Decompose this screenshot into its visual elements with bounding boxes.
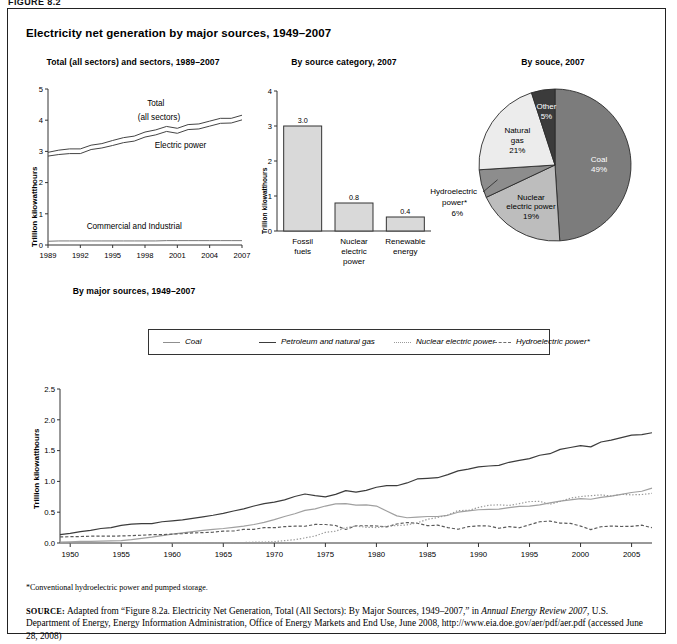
svg-text:0: 0: [39, 241, 43, 250]
svg-text:1: 1: [268, 192, 272, 201]
legend-label-1: Petroleum and natural gas: [281, 337, 375, 346]
svg-text:(all sectors): (all sectors): [138, 113, 181, 122]
svg-text:Electric power: Electric power: [155, 141, 207, 150]
legend-swatch-2: [394, 342, 411, 343]
svg-text:1990: 1990: [470, 550, 488, 559]
svg-text:Natural: Natural: [504, 126, 530, 135]
svg-text:fuels: fuels: [294, 247, 311, 256]
panel1-ylabel: Trillion kilowatthours: [30, 167, 39, 247]
bar-0: [284, 126, 322, 231]
svg-text:1.0: 1.0: [44, 477, 56, 486]
legend-swatch-0: [163, 342, 180, 343]
main-series-0: [60, 433, 652, 535]
svg-text:1965: 1965: [215, 550, 233, 559]
svg-text:1975: 1975: [317, 550, 335, 559]
svg-text:1992: 1992: [72, 251, 89, 260]
svg-text:19%: 19%: [523, 212, 539, 221]
svg-text:0.5: 0.5: [44, 508, 56, 517]
source-note: SOURCE: Adapted from “Figure 8.2a. Elect…: [26, 605, 651, 642]
legend-label-3: Hydroelectric power*: [516, 337, 590, 346]
svg-text:2.5: 2.5: [44, 385, 56, 394]
svg-text:energy: energy: [393, 247, 417, 256]
legend-swatch-1: [259, 342, 276, 343]
panel1-series-2: [48, 241, 242, 242]
svg-text:1998: 1998: [137, 251, 154, 260]
panel1-series-1: [48, 120, 242, 156]
svg-text:3: 3: [268, 122, 272, 131]
svg-text:Fossil: Fossil: [292, 237, 313, 246]
svg-text:4: 4: [268, 87, 272, 96]
main-series-3: [60, 493, 652, 543]
source-italic-title: Annual Energy Review 2007: [481, 606, 587, 616]
svg-text:Other: Other: [536, 102, 556, 111]
svg-text:1980: 1980: [368, 550, 386, 559]
bar-1: [335, 203, 373, 231]
panel2-title: By source category, 2007: [251, 57, 437, 67]
svg-text:3: 3: [39, 147, 43, 156]
svg-text:2007: 2007: [234, 251, 251, 260]
panel3-title: By souce, 2007: [438, 57, 668, 67]
svg-text:1989: 1989: [40, 251, 57, 260]
svg-text:power: power: [343, 257, 365, 266]
source-part1: Adapted from “Figure 8.2a. Electricity N…: [65, 606, 481, 616]
bar-2: [386, 217, 424, 231]
svg-text:1995: 1995: [521, 550, 539, 559]
svg-text:electric power: electric power: [506, 202, 556, 211]
svg-text:2: 2: [39, 178, 43, 187]
svg-text:Total: Total: [147, 99, 164, 108]
svg-text:1950: 1950: [62, 550, 80, 559]
svg-text:49%: 49%: [591, 165, 607, 174]
svg-text:1995: 1995: [104, 251, 121, 260]
svg-text:5: 5: [39, 85, 43, 94]
svg-text:1.5: 1.5: [44, 446, 56, 455]
svg-text:Nuclear: Nuclear: [517, 193, 545, 202]
footnote: *Conventional hydroelectric power and pu…: [26, 583, 208, 592]
svg-text:gas: gas: [511, 136, 524, 145]
svg-text:5%: 5%: [541, 112, 553, 121]
svg-text:1955: 1955: [113, 550, 131, 559]
panel1-title: Total (all sectors) and sectors, 1989–20…: [18, 57, 248, 67]
svg-text:Commercial and Industrial: Commercial and Industrial: [87, 222, 182, 231]
svg-text:2001: 2001: [169, 251, 186, 260]
figure-tag: FIGURE 8.2: [8, 0, 61, 7]
main-chart-ylabel: Trillion kilowatthours: [32, 429, 41, 509]
legend-swatch-3: [494, 342, 511, 343]
svg-text:1: 1: [39, 210, 43, 219]
svg-text:1960: 1960: [164, 550, 182, 559]
svg-text:electric: electric: [341, 247, 366, 256]
svg-text:2004: 2004: [201, 251, 218, 260]
panel1-subtitle-below: By major sources, 1949–2007: [18, 286, 250, 296]
panel2-ylabel: Trillion kilowatthours: [261, 168, 268, 234]
figure-frame: Electricity net generation by major sour…: [7, 8, 666, 634]
svg-text:Hydroelectric: Hydroelectric: [430, 187, 477, 196]
main-chart: 0.00.51.01.52.02.51950195519601965197019…: [20, 381, 658, 571]
svg-text:1985: 1985: [419, 550, 437, 559]
svg-text:2005: 2005: [623, 550, 641, 559]
svg-text:0.0: 0.0: [44, 539, 56, 548]
legend-label-0: Coal: [185, 337, 201, 346]
svg-text:1970: 1970: [266, 550, 284, 559]
svg-text:2000: 2000: [572, 550, 590, 559]
svg-text:Renewable: Renewable: [385, 237, 426, 246]
panel1-chart: 0123451989199219951998200120042007Total(…: [18, 79, 250, 279]
svg-text:Nuclear: Nuclear: [340, 237, 368, 246]
svg-text:3.0: 3.0: [298, 116, 308, 125]
svg-text:2.0: 2.0: [44, 416, 56, 425]
legend-label-2: Nuclear electric power: [416, 337, 495, 346]
svg-text:Coal: Coal: [591, 155, 608, 164]
source-prefix: SOURCE:: [26, 607, 65, 616]
svg-text:0.4: 0.4: [400, 207, 410, 216]
page-title: Electricity net generation by major sour…: [26, 27, 331, 39]
main-chart-legend: CoalPetroleum and natural gasNuclear ele…: [148, 329, 550, 355]
svg-text:21%: 21%: [509, 146, 525, 155]
svg-text:0: 0: [268, 227, 272, 236]
svg-text:0.8: 0.8: [349, 193, 359, 202]
svg-text:2: 2: [268, 157, 272, 166]
main-series-1: [60, 488, 652, 542]
svg-text:6%: 6%: [451, 209, 463, 218]
svg-text:power*: power*: [442, 198, 467, 207]
panel3-chart: Coal49%Nuclearelectric power19%Naturalga…: [433, 77, 665, 267]
panel2-chart: 012343.0Fossilfuels0.8Nuclearelectricpow…: [251, 79, 437, 289]
svg-text:4: 4: [39, 116, 43, 125]
